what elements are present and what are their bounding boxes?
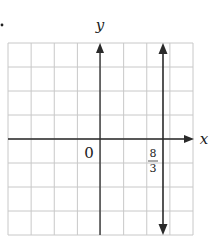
line-top-arrow-icon [159, 43, 168, 54]
line-bottom-arrow-icon [159, 224, 168, 235]
tick-label-denominator: 3 [150, 162, 157, 175]
x-axis-label: x [200, 130, 209, 148]
coordinate-plane: y x 0 8 3 [0, 0, 212, 250]
y-axis-label: y [95, 16, 105, 34]
problem-marker-dot [1, 24, 4, 27]
origin-label: 0 [84, 144, 94, 162]
tick-label-numerator: 8 [150, 147, 157, 160]
y-axis-arrow-icon [96, 43, 104, 53]
